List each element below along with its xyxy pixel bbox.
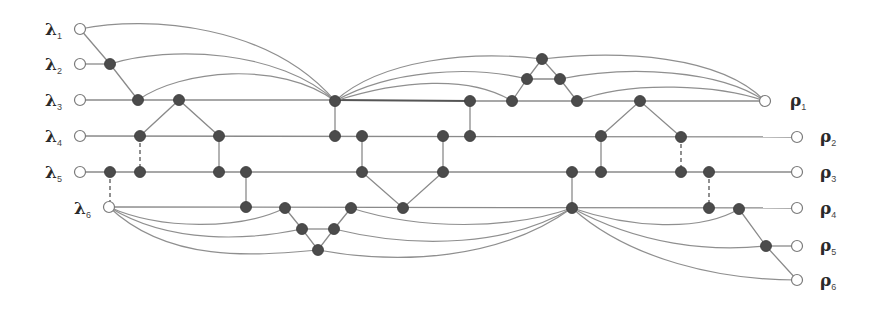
label-rho-1: ρ1 [790,90,806,112]
terminal-lambda-2 [75,59,86,70]
label-lambda-5: λ5 [45,162,62,184]
terminal-lambda-6 [104,202,115,213]
label-rho-3: ρ3 [820,162,836,184]
terminal-rho-2 [792,132,803,143]
label-rho-6: ρ6 [820,270,836,292]
label-lambda-2: λ2 [45,54,62,76]
terminal-rho-5 [792,241,803,252]
terminal-rho-3 [792,167,803,178]
label-lambda-6: λ6 [74,198,91,220]
terminal-rho-1 [760,96,771,107]
vertical-edges [219,101,601,208]
terminal-lambda-5 [75,167,86,178]
label-rho-4: ρ4 [820,198,836,220]
terminal-lambda-3 [75,95,86,106]
label-rho-2: ρ2 [820,126,836,148]
terminal-rho-4 [792,203,803,214]
left-labels: λ1 λ2 λ3 λ4 λ5 λ6 [45,19,91,220]
right-labels: ρ1 ρ2 ρ3 ρ4 ρ5 ρ6 [790,90,836,292]
label-lambda-3: λ3 [45,90,62,112]
network-diagram: λ1 λ2 λ3 λ4 λ5 λ6 ρ1 ρ2 ρ3 ρ4 ρ5 ρ6 [0,0,878,311]
curved-edges [80,24,797,280]
diagonal-edges [80,29,797,280]
terminal-lambda-4 [75,131,86,142]
terminal-lambda-1 [75,24,86,35]
right-terminals [760,96,803,286]
label-lambda-4: λ4 [45,126,62,148]
horizontal-edges [80,64,797,246]
label-lambda-1: λ1 [45,19,62,41]
terminal-rho-6 [792,275,803,286]
left-terminals [75,24,115,213]
label-rho-5: ρ5 [820,235,836,257]
